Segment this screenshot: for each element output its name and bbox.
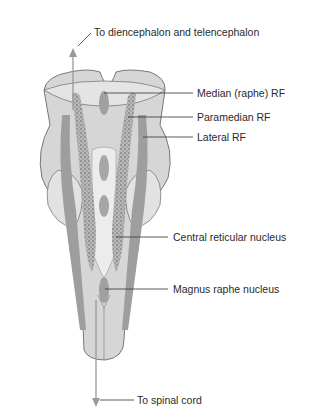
raphe-oval-1 bbox=[99, 155, 109, 181]
label-central-reticular: Central reticular nucleus bbox=[173, 231, 286, 243]
label-magnus-raphe: Magnus raphe nucleus bbox=[173, 283, 279, 295]
descending-arrow-head bbox=[92, 398, 100, 407]
label-to-diencephalon: To diencephalon and telencephalon bbox=[94, 26, 259, 38]
label-paramedian-rf: Paramedian RF bbox=[197, 111, 271, 123]
label-median-rf: Median (raphe) RF bbox=[197, 87, 285, 99]
magnus-raphe-nucleus bbox=[99, 277, 109, 303]
label-to-spinal-cord: To spinal cord bbox=[137, 394, 202, 406]
brainstem-diagram bbox=[0, 0, 309, 420]
median-raphe-nucleus-top bbox=[99, 91, 109, 115]
label-lateral-rf: Lateral RF bbox=[197, 131, 246, 143]
ascending-arrow-head bbox=[69, 48, 77, 57]
raphe-oval-2 bbox=[99, 195, 109, 217]
